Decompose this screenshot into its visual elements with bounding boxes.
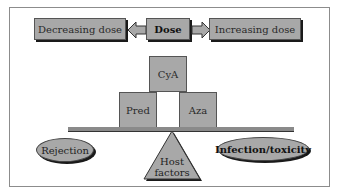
host-factors-label: Host factors [150,156,194,178]
dose-box: Dose [146,18,190,40]
infection-toxicity-oval: Infection/toxicity [217,137,309,161]
aza-label: Aza [189,105,207,116]
pred-label: Pred [126,105,150,116]
arrow-right-icon [192,20,210,40]
dose-label: Dose [154,24,181,35]
cya-block: CyA [149,56,187,92]
cya-label: CyA [158,69,179,80]
rejection-label: Rejection [41,145,89,156]
infection-toxicity-label: Infection/toxicity [215,144,311,155]
decreasing-dose-box: Decreasing dose [34,18,126,40]
decreasing-dose-label: Decreasing dose [38,24,122,35]
pred-block: Pred [119,92,157,128]
increasing-dose-box: Increasing dose [209,18,301,40]
aza-block: Aza [179,92,217,128]
arrow-left-icon [128,20,146,40]
increasing-dose-label: Increasing dose [215,24,295,35]
rejection-oval: Rejection [36,138,94,162]
